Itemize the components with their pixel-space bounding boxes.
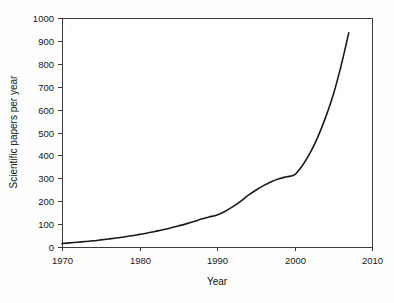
y-tick-label: 400 <box>38 150 54 161</box>
y-tick-label: 200 <box>38 196 54 207</box>
x-tick-label: 1970 <box>52 255 73 266</box>
x-tick-label: 1990 <box>207 255 228 266</box>
y-axis-title: Scientific papers per year <box>8 75 19 189</box>
x-axis-title: Year <box>207 276 228 287</box>
y-tick-label: 700 <box>38 82 54 93</box>
y-tick-label: 600 <box>38 105 54 116</box>
y-tick-label: 800 <box>38 59 54 70</box>
x-tick-label: 2010 <box>362 255 383 266</box>
x-tick-label: 1980 <box>130 255 151 266</box>
line-chart: 01002003004005006007008009001000 1970198… <box>0 0 394 303</box>
plot-frame <box>62 18 372 247</box>
y-tick-label: 900 <box>38 36 54 47</box>
y-tick-label: 1000 <box>33 13 54 24</box>
x-axis-ticks <box>63 247 373 251</box>
y-axis-ticks <box>58 19 62 248</box>
y-tick-label: 0 <box>49 242 54 253</box>
x-axis-tick-labels: 19701980199020002010 <box>52 255 383 266</box>
x-tick-label: 2000 <box>285 255 306 266</box>
figure-canvas: 01002003004005006007008009001000 1970198… <box>0 0 394 303</box>
y-axis-tick-labels: 01002003004005006007008009001000 <box>33 13 54 253</box>
y-tick-label: 100 <box>38 219 54 230</box>
y-tick-label: 500 <box>38 128 54 139</box>
y-tick-label: 300 <box>38 173 54 184</box>
